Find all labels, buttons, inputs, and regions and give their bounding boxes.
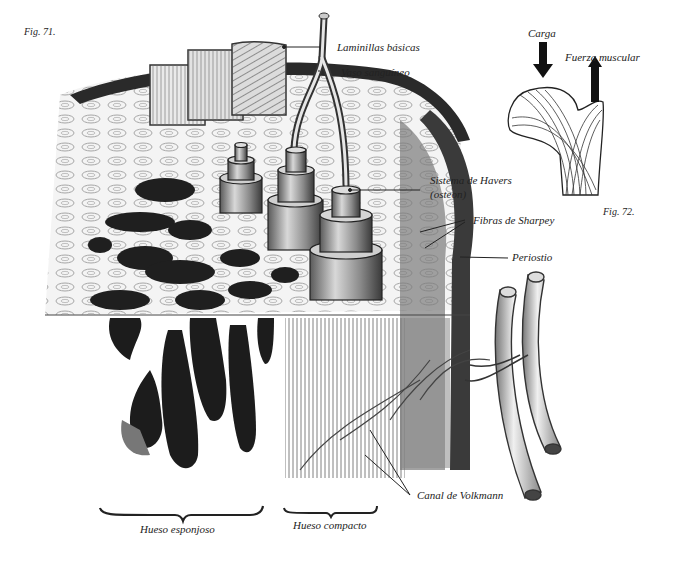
compact-bone-brace: [284, 506, 377, 517]
label-load: Carga: [528, 28, 556, 39]
label-muscle-force: Fuerza muscular: [565, 52, 640, 63]
basic-lamellae-blocks: [150, 42, 286, 125]
label-blood-vessel: Vaso sanguíneo: [341, 67, 410, 78]
spongy-bone-brace: [100, 506, 263, 521]
periosteal-vessels: [495, 272, 561, 500]
femur-diagram: [508, 42, 603, 195]
label-sharpey-fibers: Fibras de Sharpey: [473, 215, 554, 226]
figure-72-caption: Fig. 72.: [603, 207, 634, 217]
figure-71-caption: Fig. 71.: [24, 27, 55, 37]
label-haversian-system: Sistema de Havers: [430, 175, 512, 186]
compact-bone-region: [285, 318, 405, 478]
label-compact-bone: Hueso compacto: [293, 520, 367, 531]
label-periosteum: Periostio: [512, 252, 552, 263]
label-osteon: (osteon): [430, 189, 466, 200]
label-spongy-bone: Hueso esponjoso: [140, 524, 215, 535]
label-volkmann-canal: Canal de Volkmann: [417, 490, 503, 501]
label-basic-lamellae: Laminillas básicas: [337, 42, 420, 53]
bone-cross-section-illustration: [0, 0, 681, 567]
